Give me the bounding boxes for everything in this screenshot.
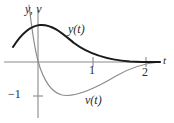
curve-y-of-t: [13, 25, 160, 62]
tick-label-t-2: 2: [142, 66, 148, 78]
horizontal-axis-label: t: [163, 55, 166, 66]
tick-label-t-1: 1: [89, 64, 95, 76]
curve-label-v-of-t: v(t): [85, 94, 102, 106]
curve-v-of-t: [29, 5, 160, 96]
vertical-axis-label: y, v: [25, 3, 42, 15]
curve-label-y-of-t: y(t): [68, 23, 85, 35]
tick-label-y-minus-1: −1: [8, 88, 21, 100]
figure-container: y, v t y(t) v(t) 1 2 −1: [0, 0, 174, 123]
